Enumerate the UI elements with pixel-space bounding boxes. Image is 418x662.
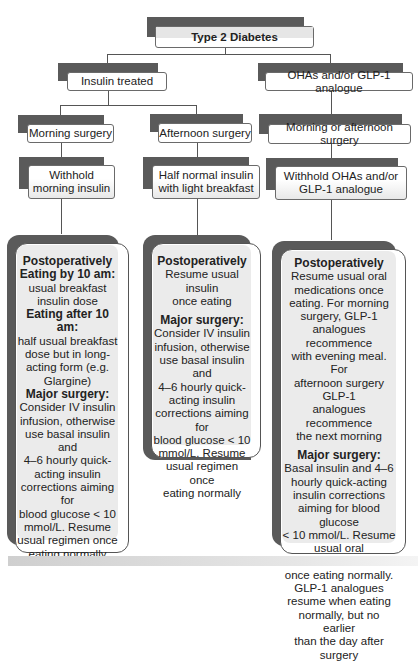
postop-line: eating. For morning [282, 297, 396, 310]
postop-heading: Major surgery: [153, 314, 251, 327]
postop-line: 4–6 hourly quick- [153, 381, 251, 394]
footer-band [8, 556, 418, 566]
postop-line: Basal insulin and 4–6 [282, 462, 396, 475]
postop-line: 4–6 hourly quick- [17, 454, 118, 467]
postop-line: mmol/L. Resume [153, 447, 251, 460]
postop-line: blood glucose < 10 [17, 508, 118, 521]
postop-line: usual regimen once [153, 460, 251, 487]
postop-line: infusion, otherwise [17, 415, 118, 428]
postop-heading: Postoperatively [282, 257, 396, 270]
connector-afternoon-action-to-postop [197, 199, 198, 235]
postop-line: once eating [153, 295, 251, 308]
connector-oha-action-to-postop [331, 200, 332, 240]
postop-line: surgery [282, 649, 396, 662]
postop-line: mmol/L. Resume [17, 521, 118, 534]
postop-line: medications once [282, 284, 396, 297]
postop-line: GLP-1 analogues [282, 582, 396, 595]
postop-text: PostoperativelyResume usual oralmedicati… [282, 251, 396, 543]
connector-morning-to-action [61, 142, 62, 158]
root-label: Type 2 Diabetes [191, 31, 278, 44]
postop-line: Consider IV insulin [153, 327, 251, 340]
postop-line: analogues recommence [282, 403, 396, 430]
postop-line: blood glucose < 10 [153, 434, 251, 447]
postop-heading: Eating after 10 am: [17, 308, 118, 335]
connector-insulin-down [108, 90, 109, 106]
postop-text: PostoperativelyEating by 10 am:usual bre… [17, 245, 118, 540]
branch-label: Insulin treated [81, 75, 153, 88]
postop-line: use basal insulin and [153, 354, 251, 381]
postop-heading: Postoperatively [17, 255, 118, 268]
postop-line: half usual breakfast [17, 335, 118, 348]
postop-line: acting insulin [153, 394, 251, 407]
postop-line: hourly quick-acting [282, 476, 396, 489]
postop-line: surgery, GLP-1 [282, 310, 396, 323]
postop-line: use basal insulin and [17, 428, 118, 455]
connector-afternoon-to-action [197, 142, 198, 158]
postop-heading: Postoperatively [153, 255, 251, 268]
postop-line: the next morning [282, 430, 396, 443]
postop-line: Resume usual insulin [153, 268, 251, 295]
connector-morning-action-to-postop [61, 198, 62, 234]
postop-line: corrections aiming for [17, 481, 118, 508]
postop-line: insulin dose [17, 295, 118, 308]
postop-line: afternoon surgery GLP-1 [282, 377, 396, 404]
connector-root-horizontal [107, 54, 331, 55]
postop-line: aiming for blood glucose [282, 502, 396, 529]
postop-heading: Eating by 10 am: [17, 268, 118, 281]
postop-line: Resume usual oral [282, 270, 396, 283]
postop-line: usual regimen once [17, 534, 118, 547]
postop-line: normally, but no earlier [282, 609, 396, 636]
postop-line: acting form (e.g. [17, 361, 118, 374]
postop-line: usual breakfast [17, 282, 118, 295]
postop-line: than the day after [282, 635, 396, 648]
postop-line: analogues recommence [282, 323, 396, 350]
postop-line: corrections aiming for [153, 407, 251, 434]
postop-line: infusion, otherwise [153, 341, 251, 354]
postop-heading: Major surgery: [282, 449, 396, 462]
postop-line: once eating normally. [282, 569, 396, 582]
postop-heading: Major surgery: [17, 388, 118, 401]
postop-line: resume when eating [282, 595, 396, 608]
postop-line: dose but in long- [17, 348, 118, 361]
postop-line: Consider IV insulin [17, 401, 118, 414]
connector-insulin-horizontal [60, 105, 197, 106]
postop-line: Glargine) [17, 375, 118, 388]
postop-line: insulin corrections [282, 489, 396, 502]
branch-label: OHAs and/or GLP-1 analogue [266, 69, 412, 95]
postop-line: acting insulin [17, 468, 118, 481]
postop-text: PostoperativelyResume usual insulinonce … [153, 245, 251, 445]
postop-line: eating normally [153, 487, 251, 500]
postop-line: < 10 mmol/L. Resume [282, 529, 396, 542]
postop-line: with evening meal. For [282, 350, 396, 377]
